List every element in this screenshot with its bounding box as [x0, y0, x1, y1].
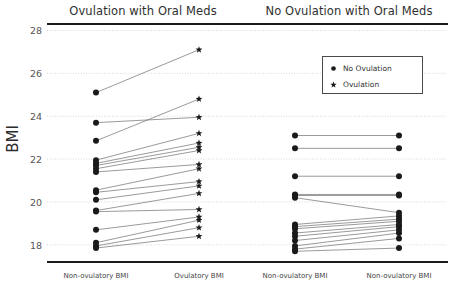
data-point-marker [93, 189, 99, 195]
data-point-marker [396, 145, 402, 151]
data-point-marker [196, 182, 203, 189]
connector-line [295, 198, 399, 213]
data-point-marker [196, 46, 203, 53]
y-tick-label-24: 24 [16, 111, 42, 122]
data-point-marker [93, 209, 99, 215]
data-point-marker [196, 165, 203, 172]
legend-label-ovulation: Ovulation [343, 80, 379, 89]
legend-entry-ovulation: Ovulation [329, 77, 379, 91]
connector-line [96, 228, 199, 246]
legend-box: No Ovulation Ovulation [322, 56, 423, 94]
y-tick-label-28: 28 [16, 25, 42, 36]
data-point-marker [396, 173, 402, 179]
legend-entry-no-ovulation: No Ovulation [329, 61, 392, 75]
bmi-slope-chart-figure: Ovulation with Oral Meds No Ovulation wi… [0, 0, 454, 290]
data-point-marker [292, 173, 298, 179]
data-point-marker [196, 114, 203, 121]
legend-label-no-ovulation: No Ovulation [343, 64, 392, 73]
data-point-marker [196, 190, 203, 197]
x-tick-label-1: Ovulatory BMI [174, 272, 224, 280]
data-point-marker [196, 206, 203, 213]
data-point-marker [292, 248, 298, 254]
connector-line [295, 221, 399, 229]
data-point-marker [93, 227, 99, 233]
data-point-marker [396, 193, 402, 199]
data-point-marker [93, 197, 99, 203]
data-point-marker [93, 120, 99, 126]
x-tick-label-0: Non-ovulatory BMI [64, 272, 129, 280]
y-tick-label-22: 22 [16, 154, 42, 165]
connector-line [96, 164, 199, 172]
circle-marker-icon [329, 64, 338, 73]
data-point-marker [196, 130, 203, 137]
connector-line [96, 99, 199, 141]
y-tick-label-20: 20 [16, 196, 42, 207]
connector-line [96, 193, 199, 210]
connector-line [96, 236, 199, 248]
data-point-marker [292, 133, 298, 139]
star-marker-icon [329, 80, 338, 89]
data-point-marker [93, 138, 99, 144]
data-point-marker [196, 233, 203, 240]
x-tick-label-3: Non-ovulatory BMI [367, 272, 432, 280]
y-axis-tick-labels: 182022242628 [16, 0, 42, 290]
data-point-marker [396, 230, 402, 236]
y-tick-label-18: 18 [16, 239, 42, 250]
x-tick-label-2: Non-ovulatory BMI [263, 272, 328, 280]
data-point-marker [396, 245, 402, 251]
data-point-marker [196, 224, 203, 231]
data-point-marker [93, 169, 99, 175]
panel-title-ovulation: Ovulation with Oral Meds [48, 4, 238, 18]
data-point-marker [93, 245, 99, 251]
data-point-marker [292, 145, 298, 151]
connector-line [96, 209, 199, 211]
connector-line [295, 248, 399, 251]
data-point-marker [396, 133, 402, 139]
connector-line [96, 186, 199, 200]
data-point-marker [396, 235, 402, 241]
data-point-marker [93, 90, 99, 96]
data-point-marker [196, 95, 203, 102]
connector-line [96, 50, 199, 93]
y-tick-label-26: 26 [16, 68, 42, 79]
data-point-marker [292, 238, 298, 244]
panel-title-no-ovulation: No Ovulation with Oral Meds [246, 4, 452, 18]
data-point-marker [292, 195, 298, 201]
